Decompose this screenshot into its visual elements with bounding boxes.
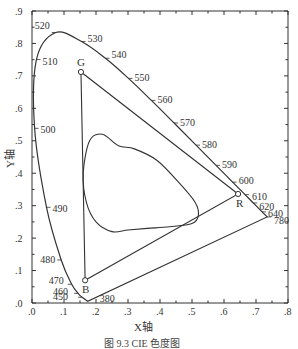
wavelength-label-500: 500 <box>41 124 56 135</box>
wavelength-label-580: 580 <box>202 139 217 150</box>
primary-point-r <box>235 191 240 196</box>
wavelength-label-460: 460 <box>53 286 68 297</box>
wavelength-label-570: 570 <box>180 117 195 128</box>
x-axis-title: X轴 <box>134 320 153 333</box>
y-tick-label: .8 <box>15 38 23 49</box>
y-tick-label: .4 <box>15 168 23 179</box>
cie-chromaticity-diagram: .0.1.2.3.4.5.6.7.8.0.1.2.3.4.5.6.7.8.9 R… <box>0 0 298 349</box>
y-tick-label: .1 <box>15 265 23 276</box>
wavelength-label-490: 490 <box>53 203 68 214</box>
x-tick-label: .6 <box>220 306 228 317</box>
rgb-gamut-triangle: RGB <box>77 56 244 295</box>
y-tick-label: .2 <box>15 233 23 244</box>
primary-label-r: R <box>236 197 244 209</box>
y-tick-label: .3 <box>15 200 23 211</box>
inner-gamut-outline <box>83 134 198 232</box>
wavelength-label-520: 520 <box>35 20 50 31</box>
x-tick-label: .4 <box>156 306 164 317</box>
y-tick-label: .7 <box>15 70 23 81</box>
x-tick-label: .1 <box>60 306 68 317</box>
x-tick-label: .7 <box>252 306 260 317</box>
wavelength-label-470: 470 <box>49 275 64 286</box>
x-tick-label: .5 <box>188 306 196 317</box>
wavelength-label-560: 560 <box>157 94 172 105</box>
y-tick-label: .5 <box>15 135 23 146</box>
wavelength-label-540: 540 <box>111 49 126 60</box>
wavelength-labels: 3804504604704804905005105205305405505605… <box>35 20 289 304</box>
y-tick-label: .9 <box>15 6 23 17</box>
primary-label-g: G <box>77 56 85 68</box>
primary-point-g <box>78 69 83 74</box>
wavelength-label-510: 510 <box>42 56 57 67</box>
wavelength-label-480: 480 <box>40 254 55 265</box>
x-tick-label: .2 <box>92 306 100 317</box>
plot-axes <box>32 11 288 303</box>
wavelength-label-550: 550 <box>135 72 150 83</box>
wavelength-label-590: 590 <box>222 159 237 170</box>
figure-caption: 图 9.3 CIE 色度图 <box>104 337 180 349</box>
wavelength-label-780: 780 <box>274 215 289 226</box>
inner-gamut-curve <box>83 134 198 232</box>
y-tick-label: .0 <box>15 298 23 309</box>
primary-label-b: B <box>82 283 89 295</box>
wavelength-label-530: 530 <box>88 33 103 44</box>
x-tick-label: .3 <box>124 306 132 317</box>
wavelength-label-600: 600 <box>239 175 254 186</box>
x-tick-label: .8 <box>284 306 292 317</box>
primary-point-b <box>83 278 88 283</box>
wavelength-label-380: 380 <box>100 293 115 304</box>
x-tick-label: .0 <box>28 306 36 317</box>
y-axis-title: Y轴 <box>3 149 16 168</box>
y-tick-label: .6 <box>15 103 23 114</box>
